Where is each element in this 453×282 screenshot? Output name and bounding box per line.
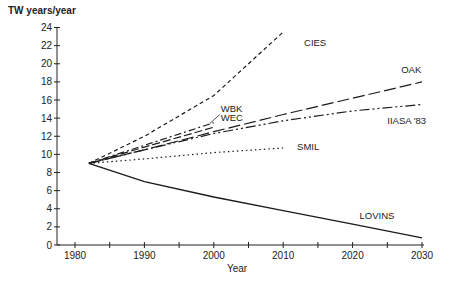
series-cies bbox=[89, 32, 283, 163]
y-tick-label: 4 bbox=[46, 203, 52, 214]
series-label: OAK bbox=[401, 64, 422, 75]
y-tick-label: 6 bbox=[46, 185, 52, 196]
x-tick-label: 2020 bbox=[341, 250, 364, 261]
series-lines bbox=[89, 32, 422, 238]
line-chart: TW years/year 02468101214161820222419801… bbox=[0, 0, 453, 282]
x-tick-label: 2000 bbox=[203, 250, 226, 261]
x-tick-label: 2010 bbox=[272, 250, 295, 261]
x-tick-label: 2030 bbox=[411, 250, 434, 261]
x-axis-label: Year bbox=[227, 263, 248, 274]
x-tick-label: 1980 bbox=[64, 250, 87, 261]
y-tick-label: 14 bbox=[41, 113, 53, 124]
series-lovins bbox=[89, 163, 422, 237]
y-tick-label: 8 bbox=[46, 167, 52, 178]
series-wec bbox=[89, 127, 214, 163]
series-wbk bbox=[89, 123, 214, 164]
y-tick-label: 20 bbox=[41, 58, 53, 69]
y-tick-label: 18 bbox=[41, 76, 53, 87]
series-label: LOVINS bbox=[360, 210, 395, 221]
y-tick-label: 12 bbox=[41, 131, 53, 142]
y-tick-label: 2 bbox=[46, 221, 52, 232]
y-tick-label: 22 bbox=[41, 40, 53, 51]
y-tick-label: 10 bbox=[41, 149, 53, 160]
series-label: WEC bbox=[221, 112, 243, 123]
x-tick-label: 1990 bbox=[133, 250, 156, 261]
series-label: SMIL bbox=[297, 141, 319, 152]
y-axis-label: TW years/year bbox=[8, 5, 76, 16]
y-tick-label: 0 bbox=[46, 240, 52, 251]
series-label: IIASA '83 bbox=[387, 115, 426, 126]
series-iiasa-83 bbox=[89, 105, 422, 164]
axes: 0246810121416182022241980199020002010202… bbox=[41, 22, 434, 261]
series-label: CIES bbox=[304, 37, 326, 48]
y-tick-label: 16 bbox=[41, 95, 53, 106]
y-tick-label: 24 bbox=[41, 22, 53, 33]
